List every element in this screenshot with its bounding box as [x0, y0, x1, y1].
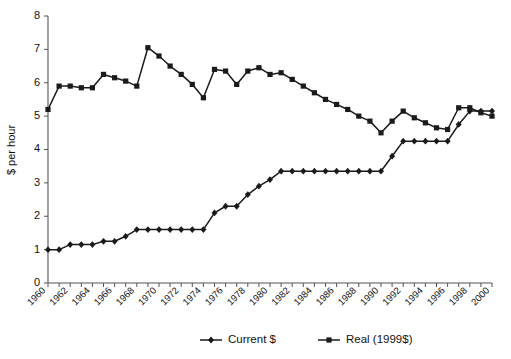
square-marker-icon — [145, 45, 150, 50]
square-marker-icon — [68, 83, 73, 88]
y-tick-label: 2 — [34, 209, 40, 221]
square-marker-icon — [245, 68, 250, 73]
square-marker-icon — [334, 102, 339, 107]
square-marker-icon — [434, 125, 439, 130]
square-marker-icon — [101, 72, 106, 77]
chart-container: 012345678 196019621964196619681970197219… — [0, 0, 511, 359]
y-axis-tick-labels: 012345678 — [34, 9, 40, 288]
square-marker-icon — [223, 68, 228, 73]
y-axis-title: $ per hour — [5, 125, 17, 175]
square-marker-icon — [190, 82, 195, 87]
square-marker-icon — [212, 67, 217, 72]
square-marker-icon — [356, 114, 361, 119]
y-tick-label: 6 — [34, 76, 40, 88]
square-marker-icon — [467, 105, 472, 110]
legend-label: Real (1999$) — [346, 333, 413, 345]
square-marker-icon — [390, 119, 395, 124]
square-marker-icon — [45, 107, 50, 112]
line-chart: 012345678 196019621964196619681970197219… — [0, 0, 511, 359]
square-marker-icon — [57, 83, 62, 88]
square-marker-icon — [445, 127, 450, 132]
square-marker-icon — [79, 85, 84, 90]
square-marker-icon — [401, 109, 406, 114]
square-marker-icon — [156, 53, 161, 58]
square-marker-icon — [234, 82, 239, 87]
square-marker-icon — [478, 110, 483, 115]
square-marker-icon — [112, 75, 117, 80]
square-marker-icon — [179, 72, 184, 77]
x-axis-ticks — [48, 283, 492, 287]
y-tick-label: 1 — [34, 243, 40, 255]
square-marker-icon — [168, 63, 173, 68]
square-marker-icon — [301, 83, 306, 88]
square-marker-icon — [267, 72, 272, 77]
square-marker-icon — [201, 95, 206, 100]
square-marker-icon — [123, 78, 128, 83]
square-marker-icon — [326, 337, 331, 342]
square-marker-icon — [90, 85, 95, 90]
square-marker-icon — [323, 97, 328, 102]
square-marker-icon — [134, 83, 139, 88]
y-tick-label: 8 — [34, 9, 40, 21]
y-tick-label: 7 — [34, 42, 40, 54]
square-marker-icon — [345, 107, 350, 112]
square-marker-icon — [367, 119, 372, 124]
square-marker-icon — [256, 65, 261, 70]
square-marker-icon — [279, 70, 284, 75]
square-marker-icon — [378, 130, 383, 135]
square-marker-icon — [290, 77, 295, 82]
y-tick-label: 3 — [34, 176, 40, 188]
square-marker-icon — [456, 105, 461, 110]
square-marker-icon — [423, 120, 428, 125]
square-marker-icon — [412, 115, 417, 120]
square-marker-icon — [312, 90, 317, 95]
square-marker-icon — [489, 114, 494, 119]
legend-label: Current $ — [228, 333, 277, 345]
y-tick-label: 4 — [34, 142, 40, 154]
y-tick-label: 5 — [34, 109, 40, 121]
